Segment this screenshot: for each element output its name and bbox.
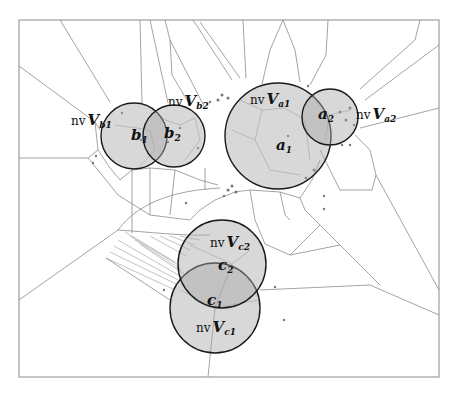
voronoi-diagram: b1 b2 a1 a2 c2 c1 nvVb1 nvVb2 nvVa1 nvVa…	[0, 0, 456, 394]
nv-circles	[101, 83, 358, 353]
label-nvVb1: nvVb1	[71, 111, 112, 130]
label-nvVa2: nvVa2	[356, 105, 396, 124]
label-nvVb2: nvVb2	[168, 92, 209, 111]
